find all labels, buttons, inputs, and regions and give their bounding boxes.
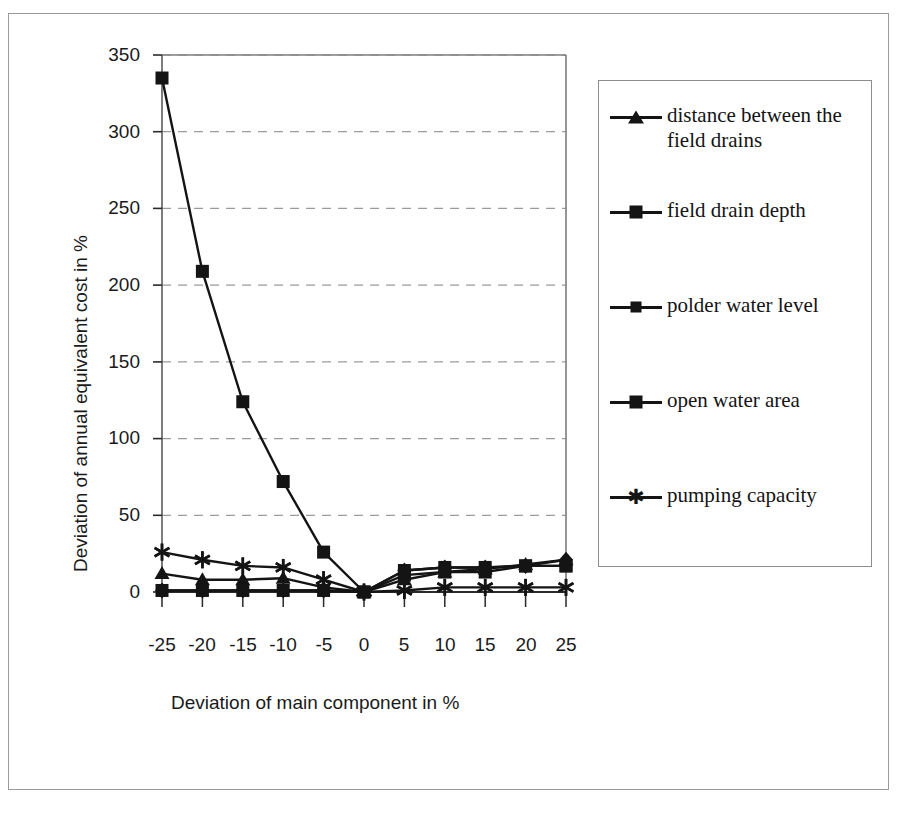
square-marker (608, 201, 664, 223)
y-tick-label: 200 (96, 274, 140, 296)
square-data-marker (277, 475, 290, 488)
x-tick-label: 10 (425, 634, 465, 656)
y-tick-label: 300 (96, 121, 140, 143)
x-tick-label: -10 (263, 634, 303, 656)
star-marker: ✱ (608, 486, 664, 508)
diamond-marker (608, 296, 664, 318)
square-data-marker (236, 395, 249, 408)
y-tick-label: 150 (96, 351, 140, 373)
x-tick-label: 5 (384, 634, 424, 656)
x-tick-label: -5 (304, 634, 344, 656)
legend-entry-pumping-capacity[interactable]: ✱ pumping capacity (599, 483, 873, 508)
x-tick-label: 0 (344, 634, 384, 656)
triangle-marker (608, 106, 664, 128)
x-tick-label: -20 (182, 634, 222, 656)
x-tick-label: 15 (465, 634, 505, 656)
legend-entry-open-water-area[interactable]: open water area (599, 388, 873, 413)
square-data-marker (479, 566, 492, 579)
legend-entry-field-drain-depth[interactable]: field drain depth (599, 198, 873, 223)
legend-label: field drain depth (664, 198, 806, 223)
square-data-marker (398, 569, 411, 582)
legend: distance between the field drains field … (598, 80, 872, 567)
y-tick-label: 100 (96, 427, 140, 449)
y-axis-ticks (153, 55, 162, 592)
x-tick-label: 25 (546, 634, 586, 656)
legend-label: distance between the field drains (664, 103, 873, 153)
square-data-marker (196, 584, 209, 597)
square-data-marker (560, 559, 573, 572)
x-tick-label: 20 (506, 634, 546, 656)
square-marker (608, 391, 664, 413)
x-tick-label: -15 (223, 634, 263, 656)
square-data-marker (196, 265, 209, 278)
y-tick-label: 0 (96, 581, 140, 603)
legend-label: polder water level (664, 293, 819, 318)
legend-entry-polder-water-level[interactable]: polder water level (599, 293, 873, 318)
legend-entry-distance-between-the-field-drains[interactable]: distance between the field drains (599, 103, 873, 153)
x-axis-title: Deviation of main component in % (171, 692, 459, 714)
square-data-marker (317, 546, 330, 559)
y-tick-label: 50 (96, 504, 140, 526)
square-data-marker (236, 584, 249, 597)
figure: 0 50 100 150 200 250 300 350 -25 -20 -15… (0, 0, 907, 815)
square-data-marker (156, 72, 169, 85)
y-tick-label: 350 (96, 44, 140, 66)
square-data-marker (519, 559, 532, 572)
square-data-marker (277, 584, 290, 597)
y-axis-title: Deviation of annual equivalent cost in % (70, 235, 92, 572)
x-tick-label: -25 (142, 634, 182, 656)
square-data-marker (156, 584, 169, 597)
y-tick-label: 250 (96, 197, 140, 219)
square-data-marker (438, 566, 451, 579)
legend-label: open water area (664, 388, 800, 413)
legend-label: pumping capacity (664, 483, 817, 508)
